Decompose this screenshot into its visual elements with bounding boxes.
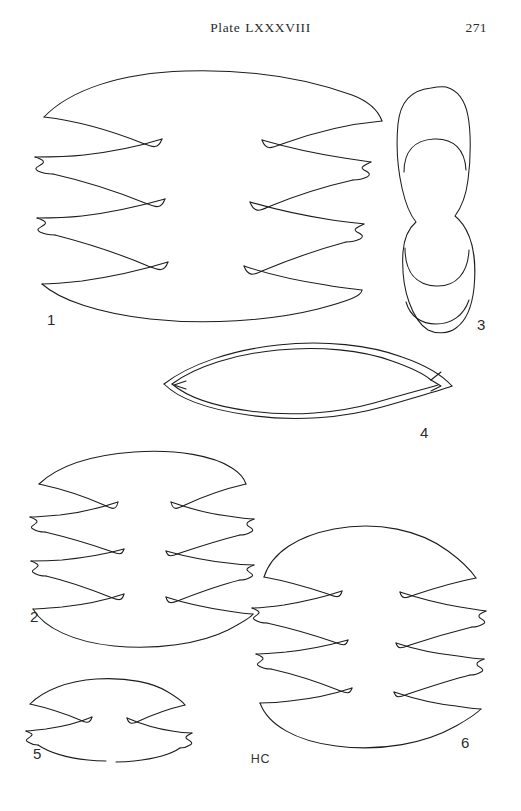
figure-6: 6 (252, 526, 486, 751)
figure-1-lobe-3-right (244, 242, 346, 274)
figure-6-lobe-1-left-b (252, 591, 342, 608)
figure-6-spine-right-2 (470, 659, 484, 675)
figure-5-outer-top (30, 679, 185, 705)
figure-4: 4 (164, 343, 452, 441)
figure-2-lobe-1-left-b (30, 502, 118, 517)
figure-1-lobe-1-left-b (35, 139, 162, 157)
figure-6-lobe-1-right (400, 578, 476, 598)
figure-1-outer-top (44, 71, 382, 121)
figure-1-lobe-3-right-b (244, 266, 362, 290)
figure-4-label: 4 (420, 424, 428, 441)
figure-1-lobe-2-right (250, 180, 353, 210)
figure-5-lobe-1-left (30, 704, 92, 722)
figure-1-lobe-1-left (44, 117, 162, 147)
figure-2-outer-top (39, 451, 246, 484)
figure-1-spine-left-2 (37, 218, 55, 235)
figure-5-lobe-1-left-b (26, 717, 92, 731)
figure-3-inner-arc-lower (405, 248, 469, 286)
figure-2-lobe-1-right (171, 484, 246, 508)
figure-6-lobe-3-right (394, 675, 470, 697)
figure-6-label: 6 (461, 734, 469, 751)
figure-1-spine-right-1 (353, 162, 371, 180)
figure-6-lobe-1-left (264, 577, 342, 597)
figure-4-outline-top (164, 343, 452, 386)
figure-1-lobe-3-left (55, 235, 168, 270)
figure-3-outline (397, 87, 475, 333)
figure-2-lobe-3-left (46, 576, 124, 600)
figure-2: 2 (30, 451, 254, 647)
figure-1-spine-right-2 (346, 224, 364, 242)
figure-6-spine-right-1 (472, 611, 486, 627)
figure-2-lobe-3-right (166, 580, 240, 603)
figure-5: 5 (26, 679, 192, 762)
figure-1-label: 1 (47, 311, 55, 328)
figure-1: 1 (35, 71, 382, 328)
figure-2-spine-left-2 (31, 561, 46, 576)
figure-6-spine-left-2 (256, 654, 271, 669)
figure-1-lobe-1-right-b (262, 140, 371, 162)
figure-2-lobe-1-right-b (171, 502, 254, 519)
figure-1-lobe-2-left (53, 174, 165, 207)
figure-5-spine-left-1 (26, 731, 38, 745)
figure-1-lobe-2-right-b (250, 202, 364, 224)
figure-3-label: 3 (477, 316, 485, 333)
figure-1-lobe-2-left-b (37, 199, 165, 218)
figure-6-outer-bottom (260, 703, 481, 748)
figure-6-lobe-2-right (396, 627, 472, 648)
figure-5-lobe-1-right (127, 705, 185, 723)
figure-2-lobe-3-left-b (33, 594, 124, 609)
figure-1-lobe-1-right (262, 121, 382, 148)
figure-2-spine-right-1 (240, 519, 254, 535)
figure-4-inner-bottom (172, 384, 438, 414)
figure-2-spine-right-2 (240, 565, 254, 580)
figure-2-lobe-3-right-b (166, 597, 253, 614)
figure-6-spine-left-1 (252, 608, 267, 623)
figure-1-spine-left-1 (35, 157, 53, 174)
figure-1-lobe-3-left-b (42, 262, 168, 284)
figure-6-lobe-1-right-b (400, 592, 486, 611)
figure-2-label: 2 (30, 608, 38, 625)
figure-6-outer-top (264, 526, 476, 578)
figure-2-lobe-2-left (45, 532, 124, 554)
figure-4-notch-left (174, 381, 186, 389)
figure-5-spine-right-1 (180, 733, 192, 748)
figure-2-lobe-1-left (39, 484, 118, 508)
figure-1-outer-bottom (42, 284, 362, 322)
artist-monogram: HC (0, 752, 521, 766)
figure-3-inner-arc-upper (404, 139, 466, 172)
figure-6-lobe-3-left (271, 669, 352, 693)
figure-5-lobe-1-right-b (127, 718, 192, 733)
plate-page: PlateLXXXVIII 271 (0, 0, 521, 811)
figure-3-inner-arc-bottom (406, 300, 469, 324)
figure-6-lobe-2-left (267, 623, 348, 645)
figure-illustration-layer: 1 3 4 (0, 0, 521, 811)
figure-2-lobe-2-right (166, 535, 240, 556)
figure-2-outer-bottom (33, 609, 253, 647)
figure-2-spine-left-1 (30, 517, 45, 532)
figure-3: 3 (397, 87, 485, 333)
